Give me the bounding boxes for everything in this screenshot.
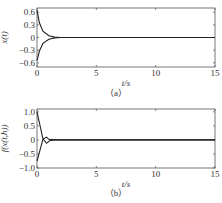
x-tick-label: 10 bbox=[151, 68, 161, 78]
x-tick-label: 10 bbox=[151, 169, 161, 179]
y-axis-label: x(t) bbox=[0, 31, 9, 45]
y-tick-label: −0.6 bbox=[19, 58, 36, 68]
series-line bbox=[37, 137, 215, 161]
series-line bbox=[37, 112, 215, 144]
series-line bbox=[37, 38, 215, 61]
chart-panel-b: 0510151.00.50−0.5−1.0t/sf(x(t,h))（b） bbox=[0, 107, 220, 198]
plot-frame bbox=[37, 109, 215, 168]
x-tick-label: 15 bbox=[211, 169, 221, 179]
y-tick-label: 0.5 bbox=[24, 121, 36, 131]
x-tick-label: 15 bbox=[211, 68, 221, 78]
y-tick-label: 0 bbox=[31, 135, 36, 145]
y-tick-label: 0.6 bbox=[24, 7, 36, 17]
x-tick-label: 0 bbox=[35, 68, 40, 78]
y-tick-label: −0.3 bbox=[19, 45, 36, 55]
y-tick-label: −1.0 bbox=[19, 163, 36, 173]
y-tick-label: 0.3 bbox=[24, 20, 36, 30]
y-tick-label: 1.0 bbox=[24, 107, 36, 117]
y-axis-label: f(x(t,h)) bbox=[0, 125, 9, 153]
series-line bbox=[37, 10, 215, 37]
x-tick-label: 5 bbox=[94, 68, 99, 78]
y-tick-label: 0 bbox=[31, 33, 36, 43]
panel-caption: （a） bbox=[105, 88, 127, 98]
y-tick-label: −0.5 bbox=[19, 149, 36, 159]
chart-panel-a: 0510150.60.30−0.3−0.6t/sx(t)（a） bbox=[0, 7, 220, 98]
x-tick-label: 5 bbox=[94, 169, 99, 179]
panel-caption: （b） bbox=[105, 188, 128, 198]
chart-figure: 0510150.60.30−0.3−0.6t/sx(t)（a）0510151.0… bbox=[0, 0, 222, 203]
x-axis-label: t/s bbox=[122, 78, 131, 88]
x-tick-label: 0 bbox=[35, 169, 40, 179]
